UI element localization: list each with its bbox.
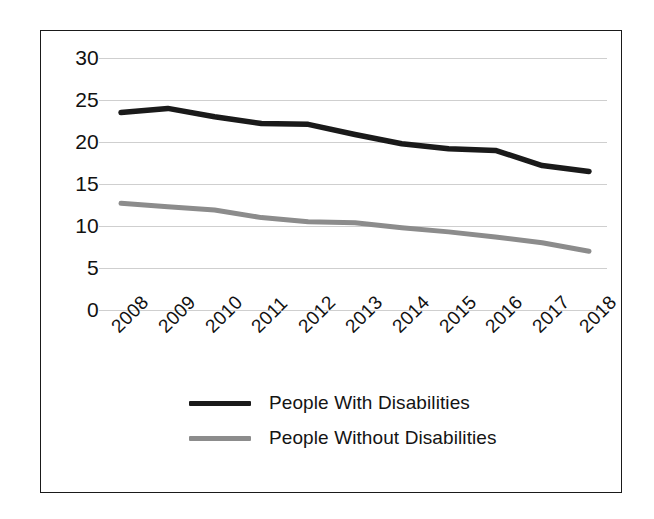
x-tick-label: 2013 xyxy=(341,291,387,337)
chart-legend: People With DisabilitiesPeople Without D… xyxy=(41,379,621,462)
x-tick-label: 2011 xyxy=(247,292,292,337)
x-tick-label: 2012 xyxy=(294,291,340,337)
x-tick-label: 2015 xyxy=(435,291,481,337)
legend-swatch-icon xyxy=(189,401,251,406)
legend-swatch-icon xyxy=(189,436,251,441)
y-tick-label: 0 xyxy=(87,298,99,322)
x-tick-label: 2009 xyxy=(154,291,200,337)
x-tick-label: 2010 xyxy=(201,291,247,337)
legend-label: People Without Disabilities xyxy=(269,427,497,449)
x-tick-label: 2018 xyxy=(575,291,621,337)
x-tick-label: 2017 xyxy=(528,291,574,337)
x-tick-label: 2008 xyxy=(107,291,153,337)
legend-item: People Without Disabilities xyxy=(41,427,621,449)
y-tick-label: 5 xyxy=(87,256,99,280)
legend-label: People With Disabilities xyxy=(269,392,470,414)
x-tick-label: 2016 xyxy=(481,291,527,337)
y-tick-label: 30 xyxy=(75,46,99,70)
y-tick-label: 20 xyxy=(75,130,99,154)
plot-area: 051015202530 200820092010201120122013201… xyxy=(41,31,621,492)
legend-item: People With Disabilities xyxy=(41,392,621,414)
x-tick-label: 2014 xyxy=(388,291,434,337)
y-tick-label: 10 xyxy=(75,214,99,238)
chart-frame: 051015202530 200820092010201120122013201… xyxy=(40,30,622,493)
y-tick-label: 25 xyxy=(75,88,99,112)
y-tick-label: 15 xyxy=(75,172,99,196)
